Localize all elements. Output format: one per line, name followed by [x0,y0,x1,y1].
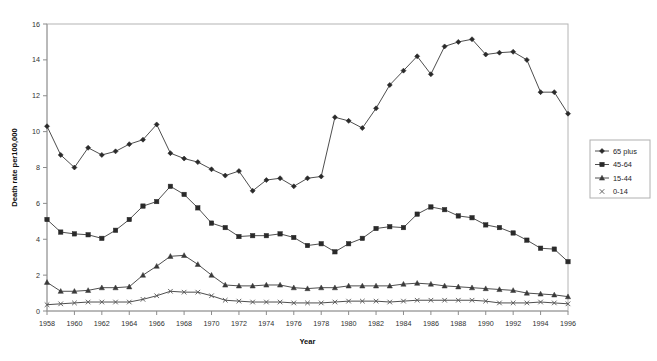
y-tick-label: 12 [32,91,40,100]
data-point-triangle [195,262,200,267]
data-point-square [45,217,49,221]
data-point-diamond [278,176,283,181]
y-tick-label: 10 [32,127,40,136]
x-tick-label: 1990 [478,319,494,328]
data-point-diamond [127,142,132,147]
data-point-diamond [511,49,516,54]
data-point-diamond [99,152,104,157]
data-point-diamond [538,90,543,95]
data-point-square [113,228,117,232]
data-point-square [470,216,474,220]
x-tick-label: 1970 [204,319,220,328]
data-point-square [86,233,90,237]
data-point-square [442,207,446,211]
x-tick-label: 1976 [286,319,302,328]
x-tick-label: 1992 [505,319,521,328]
data-point-square [333,250,337,254]
data-point-square [415,212,419,216]
data-point-diamond [182,156,187,161]
data-point-square [223,225,227,229]
data-point-square [209,221,213,225]
data-point-square [237,234,241,238]
data-point-square [305,243,309,247]
data-point-square [182,192,186,196]
x-tick-label: 1974 [258,319,274,328]
data-point-square [552,247,556,251]
x-tick-label: 1966 [149,319,165,328]
plot-area-frame [47,24,568,311]
data-point-diamond [319,174,324,179]
x-tick-label: 1978 [313,319,329,328]
series-line-0 [47,39,568,191]
x-tick-label: 1996 [560,319,576,328]
line-chart: 0246810121416195819601962196419661968197… [0,0,657,361]
legend-label-0: 65 plus [613,147,637,156]
data-point-square [168,184,172,188]
data-point-square [401,225,405,229]
data-point-diamond [291,184,296,189]
data-point-diamond [209,167,214,172]
chart-container: 0246810121416195819601962196419661968197… [0,0,657,361]
data-point-square [154,199,158,203]
data-point-diamond [566,111,571,116]
data-point-square [250,233,254,237]
data-point-square [346,242,350,246]
data-point-square [511,231,515,235]
y-tick-label: 4 [36,235,40,244]
y-tick-label: 6 [36,199,40,208]
x-tick-label: 1960 [66,319,82,328]
data-point-diamond [456,39,461,44]
x-tick-label: 1980 [341,319,357,328]
y-tick-label: 14 [32,55,40,64]
data-point-square [278,232,282,236]
data-point-diamond [113,149,118,154]
data-point-square [497,225,501,229]
y-axis-title: Death rate per100,000 [10,128,19,207]
x-tick-label: 1964 [121,319,137,328]
data-point-square [264,233,268,237]
data-point-square [100,236,104,240]
data-point-diamond [305,176,310,181]
data-point-diamond [442,44,447,49]
data-point-square [72,232,76,236]
data-point-diamond [497,50,502,55]
x-tick-label: 1986 [423,319,439,328]
y-tick-label: 2 [36,271,40,280]
y-tick-label: 0 [36,307,40,316]
data-point-triangle [140,272,145,277]
series-line-1 [47,186,568,261]
x-tick-label: 1982 [368,319,384,328]
data-point-diamond [552,90,557,95]
x-tick-label: 1968 [176,319,192,328]
data-point-diamond [45,124,50,129]
x-tick-label: 1984 [395,319,411,328]
data-point-diamond [168,151,173,156]
data-point-square [141,204,145,208]
data-point-square [360,236,364,240]
data-point-square [388,224,392,228]
data-point-triangle [44,280,49,285]
data-point-square [319,242,323,246]
data-point-diamond [332,115,337,120]
y-tick-label: 16 [32,20,40,29]
x-tick-label: 1972 [231,319,247,328]
legend-label-1: 45-64 [613,160,632,169]
legend-label-2: 15-44 [613,174,632,183]
data-point-square [484,223,488,227]
legend-label-3: 0-14 [613,187,628,196]
data-point-diamond [223,173,228,178]
data-point-square [429,205,433,209]
x-tick-label: 1958 [39,319,55,328]
data-point-square [127,217,131,221]
data-point-square [374,226,378,230]
data-point-diamond [524,57,529,62]
data-point-square [292,235,296,239]
data-point-square [59,230,63,234]
x-axis-title: Year [299,337,315,346]
y-tick-label: 8 [36,163,40,172]
data-point-square [538,246,542,250]
data-point-square [600,162,604,166]
x-tick-label: 1994 [533,319,549,328]
data-point-square [566,259,570,263]
x-tick-label: 1962 [94,319,110,328]
